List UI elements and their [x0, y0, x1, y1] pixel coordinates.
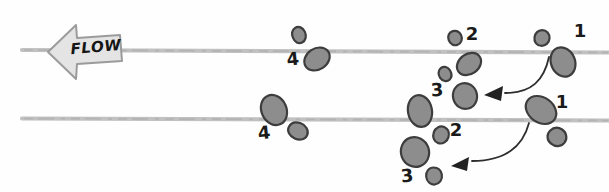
small-cell-body: [447, 29, 464, 46]
step-number-label: 3: [430, 79, 444, 101]
small-cell-body: [544, 124, 570, 150]
step-number-label: 2: [450, 119, 463, 140]
transition-arrow-top-curve: [505, 57, 549, 93]
cell-step-4-top: 4: [286, 25, 335, 75]
small-cell-body: [430, 124, 451, 146]
large-cell-body: [546, 44, 579, 81]
large-cell-body: [405, 93, 434, 129]
transition-arrowhead-bottom: [451, 157, 469, 171]
transition-arrow-top: [484, 57, 549, 101]
step-number-label: 3: [400, 164, 415, 186]
cell-step-4-bottom: 4: [256, 91, 311, 144]
step-number-label: 2: [466, 23, 479, 44]
diagram-page: FLOW 4 2 3 1: [0, 0, 609, 192]
small-cell-body: [426, 168, 442, 185]
step-number-label: 4: [286, 47, 301, 69]
transition-arrow-bottom: [451, 123, 529, 171]
step-number-label: 1: [574, 20, 587, 41]
transition-arrowhead-top: [484, 86, 503, 101]
step-number-label: 4: [257, 121, 272, 143]
small-cell-body: [285, 119, 310, 143]
flow-line-bottom: [22, 119, 608, 121]
small-cell-body: [533, 29, 551, 47]
flow-direction-arrow: FLOW: [48, 25, 123, 79]
large-cell-body: [450, 80, 480, 111]
large-cell-body: [300, 43, 334, 75]
flow-cell-adhesion-diagram: FLOW 4 2 3 1: [0, 0, 609, 192]
transition-arrow-bottom-curve: [472, 123, 529, 161]
step-number-label: 1: [556, 91, 569, 112]
small-cell-body: [290, 25, 308, 45]
